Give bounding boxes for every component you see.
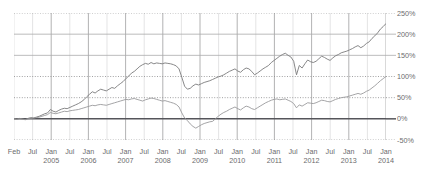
x-tick-year: 2012 (299, 157, 325, 166)
x-tick-month: Jan (343, 147, 355, 156)
x-tick-month: Jul (251, 147, 260, 156)
x-tick-month: Jul (214, 147, 223, 156)
x-tick-month: Jan (269, 147, 281, 156)
x-tick-month: Jan (83, 147, 95, 156)
plot-area (14, 13, 386, 140)
x-tick-year: 2014 (373, 157, 399, 166)
y-axis-tick-label: 250% (397, 9, 415, 18)
x-tick-year: 2009 (187, 157, 213, 166)
x-tick-year: 2005 (38, 157, 64, 166)
x-tick-month: Jan (380, 147, 392, 156)
y-label-leaders (386, 13, 398, 140)
y-axis-tick-label: 100% (397, 72, 415, 81)
y-axis-tick-label: 0% (397, 114, 407, 123)
x-tick-month: Jul (65, 147, 74, 156)
x-tick-year: 2011 (261, 157, 287, 166)
x-tick-year: 2008 (150, 157, 176, 166)
x-tick-month: Jan (194, 147, 206, 156)
chart-svg (14, 13, 386, 140)
x-tick-year: 2006 (75, 157, 101, 166)
stock-performance-chart: -50%0%50%100%150%200%250% FebJulJan2005J… (0, 0, 426, 185)
x-tick-month: Jul (140, 147, 149, 156)
x-tick-month: Jan (157, 147, 169, 156)
x-tick-month: Jan (306, 147, 318, 156)
x-tick-month: Jan (45, 147, 57, 156)
x-tick-month: Jan (120, 147, 132, 156)
x-tick-month: Jul (102, 147, 111, 156)
x-tick-year: 2010 (224, 157, 250, 166)
x-tick-month: Jul (326, 147, 335, 156)
x-tick-month: Jul (288, 147, 297, 156)
y-axis-tick-label: -50% (397, 136, 414, 145)
x-tick-month: Jul (363, 147, 372, 156)
vertical-gridlines (14, 13, 386, 140)
x-tick-year: 2007 (113, 157, 139, 166)
x-axis-tick-label: Jan2014 (373, 148, 399, 165)
x-tick-month: Jan (231, 147, 243, 156)
x-tick-month: Feb (8, 147, 20, 156)
y-axis-tick-label: 150% (397, 51, 415, 60)
x-tick-month: Jul (177, 147, 186, 156)
x-tick-month: Jul (28, 147, 37, 156)
y-axis-tick-label: 50% (397, 93, 411, 102)
x-tick-year: 2013 (336, 157, 362, 166)
y-axis-tick-label: 200% (397, 30, 415, 39)
